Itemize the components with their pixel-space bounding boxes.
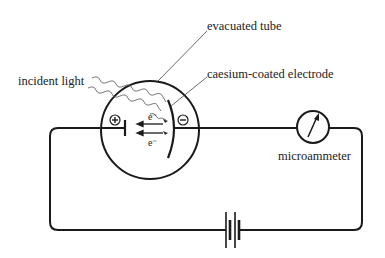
photoelectric-circuit-diagram [0,0,385,258]
electron-label-bottom: e⁻ [148,138,157,148]
electrode-label: caesium-coated electrode [207,68,334,81]
evacuated-tube-leader [158,31,207,81]
microammeter-label: microammeter [278,150,351,163]
battery-icon [226,212,239,248]
evacuated-tube-label: evacuated tube [207,20,282,33]
electron-label-top: e⁻ [148,112,157,122]
incident-light-label: incident light [18,75,84,88]
